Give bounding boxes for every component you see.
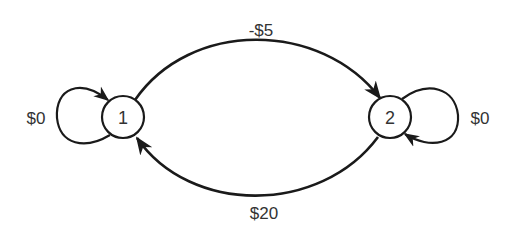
edge-1-to-2	[135, 40, 380, 100]
node-2: 2	[369, 96, 411, 138]
edge-label-2-self: $0	[471, 109, 490, 128]
edge-label-1-self: $0	[27, 109, 46, 128]
edge-label-1-to-2: -$5	[249, 21, 274, 40]
edge-2-to-1	[137, 137, 378, 196]
node-2-label: 2	[385, 108, 395, 128]
node-1-label: 1	[118, 108, 128, 128]
node-1: 1	[102, 96, 144, 138]
state-diagram: 1 2 $0 -$5 $20 $0	[0, 0, 513, 229]
edge-label-2-to-1: $20	[250, 204, 278, 223]
